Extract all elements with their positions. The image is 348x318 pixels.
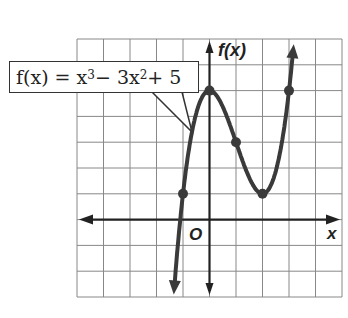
function-graph <box>0 0 348 318</box>
x-axis-label: x <box>327 224 336 244</box>
label-prefix: f(x) = x <box>16 66 87 88</box>
callout-pointer <box>152 92 192 132</box>
label-suffix: + 5 <box>147 66 181 88</box>
function-label: f(x) = x3 − 3x2 + 5 <box>9 61 199 93</box>
label-exp1: 3 <box>87 68 95 82</box>
label-exp2: 2 <box>140 68 148 82</box>
y-axis-label: f(x) <box>218 40 246 61</box>
label-mid: − 3x <box>95 66 140 88</box>
origin-label: O <box>189 225 202 245</box>
